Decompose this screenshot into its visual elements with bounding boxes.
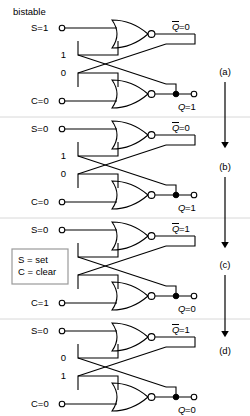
- junction-dot-q: [173, 192, 179, 198]
- label-input-c: C=0: [31, 398, 49, 409]
- legend-line-set: S = set: [18, 254, 48, 265]
- step-label-b: (b): [219, 161, 231, 172]
- label-output-q: Q =0: [178, 303, 196, 314]
- nor-gate-bottom-inversion-bubble: [148, 91, 155, 98]
- output-terminal-q[interactable]: [191, 91, 197, 97]
- nor-gate-bottom-inversion-bubble: [148, 293, 155, 300]
- input-terminal-c[interactable]: [59, 199, 65, 205]
- nor-gate-bottom-inversion-bubble: [148, 394, 155, 401]
- label-feedback-bottom: 1: [61, 370, 66, 381]
- output-terminal-q[interactable]: [191, 293, 197, 299]
- nor-gate-top-inversion-bubble: [148, 132, 155, 139]
- step-label-d: (d): [219, 345, 231, 356]
- input-terminal-c[interactable]: [59, 300, 65, 306]
- label-output-q: Q =0: [178, 404, 196, 415]
- step-label-c: (c): [219, 259, 230, 270]
- label-output-q: Q =1: [178, 202, 196, 213]
- label-feedback-top: 1: [61, 150, 66, 161]
- label-feedback-bottom: 0: [61, 67, 66, 78]
- step-label-a: (a): [219, 66, 231, 77]
- label-output-q-value: =1: [185, 101, 196, 112]
- label-input-s: S=0: [31, 224, 48, 235]
- label-output-qbar-value: =1: [179, 223, 190, 234]
- label-output-qbar-value: =1: [179, 324, 190, 335]
- label-input-s: S=1: [31, 22, 48, 33]
- label-output-qbar-value: =0: [179, 122, 190, 133]
- label-input-s: S=0: [31, 123, 48, 134]
- figure-title: bistable: [13, 6, 46, 17]
- label-output-qbar: Q =0: [172, 21, 190, 32]
- junction-dot-q: [173, 91, 179, 97]
- label-input-c: C=0: [31, 95, 49, 106]
- label-output-q-value: =0: [185, 404, 196, 415]
- nor-gate-top-inversion-bubble: [148, 31, 155, 38]
- output-terminal-q[interactable]: [191, 192, 197, 198]
- input-terminal-s[interactable]: [59, 126, 65, 132]
- nor-gate-bottom-inversion-bubble: [148, 192, 155, 199]
- label-input-c: C=0: [31, 196, 49, 207]
- junction-dot-q: [173, 293, 179, 299]
- figure-canvas: bistable S=1 C=0 1: [0, 0, 250, 416]
- label-output-qbar: Q =1: [172, 223, 190, 234]
- input-terminal-c[interactable]: [59, 98, 65, 104]
- label-input-c: C=1: [31, 297, 49, 308]
- input-terminal-s[interactable]: [59, 227, 65, 233]
- nor-gate-top-inversion-bubble: [148, 334, 155, 341]
- label-output-q: Q =1: [178, 101, 196, 112]
- bistable-latch-figure: bistable S=1 C=0 1: [0, 0, 250, 416]
- figure-background: [0, 0, 250, 416]
- nor-gate-top-inversion-bubble: [148, 233, 155, 240]
- label-output-q-value: =1: [185, 202, 196, 213]
- label-feedback-top: 1: [61, 49, 66, 60]
- label-output-qbar: Q =0: [172, 122, 190, 133]
- junction-dot-q: [173, 394, 179, 400]
- input-terminal-s[interactable]: [59, 328, 65, 334]
- input-terminal-c[interactable]: [59, 401, 65, 407]
- legend-box: S = set C = clear: [12, 249, 68, 284]
- label-input-s: S=0: [31, 325, 48, 336]
- legend-line-clear: C = clear: [18, 266, 56, 277]
- label-output-qbar: Q =1: [172, 324, 190, 335]
- label-output-qbar-value: =0: [179, 21, 190, 32]
- output-terminal-q[interactable]: [191, 394, 197, 400]
- label-feedback-top: 0: [61, 352, 66, 363]
- input-terminal-s[interactable]: [59, 25, 65, 31]
- label-output-q-value: =0: [185, 303, 196, 314]
- label-feedback-bottom: 0: [61, 168, 66, 179]
